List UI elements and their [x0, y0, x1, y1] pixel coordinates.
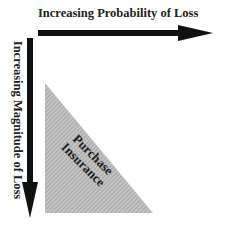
diagram-canvas	[0, 0, 225, 227]
y-axis-label: Increasing Magnitude of Loss	[10, 41, 25, 199]
x-axis-label: Increasing Probability of Loss	[38, 6, 208, 21]
probability-arrow	[38, 25, 213, 41]
